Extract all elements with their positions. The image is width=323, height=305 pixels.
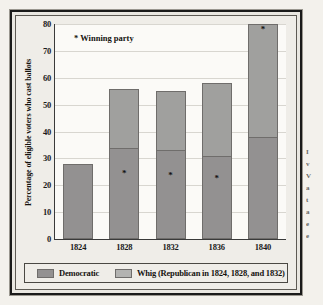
legend-swatch-democratic	[37, 269, 54, 278]
winning-party-annotation: * Winning party	[74, 33, 134, 43]
side-text-line: V	[306, 172, 322, 180]
bar-segment-democratic-1832[interactable]	[156, 150, 186, 239]
y-axis-tick-label: 50	[43, 100, 51, 110]
bar-segment-democratic-1828[interactable]	[109, 148, 139, 239]
bar-group-1840[interactable]: *1840	[248, 24, 278, 239]
y-axis-tick-label: 80	[43, 19, 51, 29]
x-axis-tick-label-1828: 1828	[116, 242, 132, 252]
y-axis-tick-label: 30	[43, 153, 51, 163]
bar-group-1836[interactable]: *1836	[202, 83, 232, 239]
plot-area: 010203040506070801824*1828*1832*1836*184…	[54, 24, 286, 240]
legend-label-democratic: Democratic	[59, 268, 99, 278]
y-axis-title-label: Percentage of eligible voters who cast b…	[25, 58, 34, 205]
bar-group-1828[interactable]: *1828	[109, 89, 139, 240]
side-text-line: t	[306, 196, 322, 204]
bar-segment-whig-1828[interactable]	[109, 89, 139, 148]
x-axis-tick-label-1824: 1824	[70, 242, 86, 252]
y-axis-tick-label: 40	[43, 127, 51, 137]
y-axis-tick-label: 10	[43, 207, 51, 217]
bar-segment-whig-1836[interactable]	[202, 83, 232, 156]
side-text-column: IvVataee	[306, 148, 322, 240]
side-text-line: I	[306, 148, 322, 156]
figure-inner-panel: Percentage of eligible voters who cast b…	[15, 15, 297, 290]
side-text-line: a	[306, 184, 322, 192]
side-text-line: e	[306, 232, 322, 240]
y-axis-tick-label: 20	[43, 180, 51, 190]
bar-segment-democratic-1836[interactable]	[202, 156, 232, 239]
bar-segment-whig-1840[interactable]	[248, 24, 278, 137]
winner-star-1832: *	[168, 171, 173, 180]
y-axis-tick-label: 60	[43, 73, 51, 83]
bar-group-1832[interactable]: *1832	[156, 91, 186, 239]
bar-segment-democratic-1840[interactable]	[248, 137, 278, 239]
side-text-line: a	[306, 208, 322, 216]
side-text-line: e	[306, 220, 322, 228]
side-text-line: v	[306, 160, 322, 168]
figure-frame: Percentage of eligible voters who cast b…	[10, 10, 302, 295]
y-axis-tick-label: 0	[47, 234, 51, 244]
x-axis-tick-label-1832: 1832	[162, 242, 178, 252]
legend-swatch-whig	[115, 269, 132, 278]
legend-item-democratic: Democratic	[37, 268, 99, 278]
legend-item-whig: Whig (Republican in 1824, 1828, and 1832…	[115, 268, 285, 278]
bar-segment-whig-1832[interactable]	[156, 91, 186, 150]
winner-star-1840: *	[261, 24, 266, 33]
legend-label-whig: Whig (Republican in 1824, 1828, and 1832…	[137, 268, 285, 278]
y-axis-title: Percentage of eligible voters who cast b…	[22, 24, 36, 240]
x-axis-tick-label-1836: 1836	[209, 242, 225, 252]
winner-star-1836: *	[214, 174, 219, 183]
bar-segment-democratic-1824[interactable]	[63, 164, 93, 239]
bar-group-1824[interactable]: 1824	[63, 164, 93, 239]
x-axis-tick-label-1840: 1840	[255, 242, 271, 252]
y-axis-tick-label: 70	[43, 46, 51, 56]
chart-legend: Democratic Whig (Republican in 1824, 182…	[24, 263, 288, 283]
winner-star-1828: *	[122, 169, 127, 178]
